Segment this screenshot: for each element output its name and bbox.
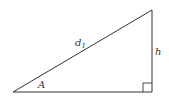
angle-label: A [37, 79, 45, 90]
height-label: h [155, 46, 161, 57]
right-angle-marker [143, 83, 152, 92]
hypotenuse-label: d1 [75, 37, 86, 50]
triangle [13, 10, 152, 92]
right-triangle-diagram: d1 h A [0, 0, 169, 99]
